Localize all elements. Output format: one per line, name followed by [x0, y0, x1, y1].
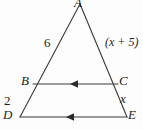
segment-AD — [20, 4, 80, 117]
triangle-svg — [0, 0, 143, 130]
vertex-label-c: C — [119, 74, 128, 87]
length-label-ce: x — [120, 92, 126, 105]
vertex-label-a: A — [74, 0, 82, 9]
triangle-edges — [20, 4, 127, 117]
geometry-figure: A B C D E 6 (x + 5) 2 x — [0, 0, 143, 130]
length-label-ac: (x + 5) — [105, 36, 138, 48]
length-label-ab: 6 — [44, 36, 51, 49]
parallel-arrow-de-icon — [66, 113, 74, 121]
vertex-label-b: B — [21, 74, 29, 87]
length-label-bd: 2 — [4, 94, 11, 107]
vertex-label-e: E — [128, 108, 136, 121]
parallel-arrow-bc-icon — [70, 80, 78, 88]
vertex-label-d: D — [3, 108, 12, 121]
parallel-arrow-marks — [66, 80, 78, 121]
